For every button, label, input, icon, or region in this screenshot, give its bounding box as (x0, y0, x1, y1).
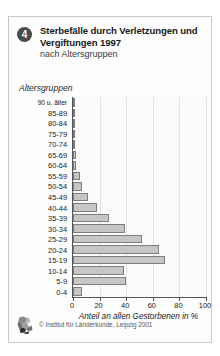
chart-subtitle: nach Altersgruppen (40, 49, 207, 60)
y-tick-label: 65-69 (48, 150, 67, 159)
x-tick-label: 100 (199, 301, 211, 310)
x-tick-label: 0 (70, 301, 74, 310)
bar (73, 203, 97, 212)
y-axis-title: Altersgruppen (19, 83, 73, 93)
y-tick-label: 0-4 (56, 287, 67, 296)
y-tick-label: 5-9 (56, 277, 67, 286)
bar (73, 256, 165, 265)
bar (73, 193, 88, 202)
bar (73, 287, 82, 296)
bar (73, 224, 125, 233)
bar (73, 214, 109, 223)
y-tick-label: 80-84 (48, 119, 67, 128)
y-tick-label: 50-54 (48, 182, 67, 191)
y-tick-label: 30-34 (48, 224, 67, 233)
gridline (206, 97, 207, 297)
plot-area (72, 97, 206, 298)
bar (73, 119, 75, 128)
gridline (126, 97, 127, 297)
title-block: Sterbefälle durch Verletzungen und Vergi… (40, 25, 207, 60)
y-tick-label: 70-74 (48, 140, 67, 149)
plot-area-wrapper: 90 u. älter85-8980-8475-7970-7465-6960-6… (19, 97, 207, 310)
y-tick-label: 15-19 (48, 256, 67, 265)
x-tick-label: 40 (121, 301, 129, 310)
y-tick-label: 55-59 (48, 171, 67, 180)
bar (73, 98, 75, 107)
y-tick-label: 75-79 (48, 129, 67, 138)
bar (73, 266, 124, 275)
bar (73, 245, 159, 254)
y-tick-label: 35-39 (48, 214, 67, 223)
y-tick-label: 25-29 (48, 235, 67, 244)
y-axis-tick-labels: 90 u. älter85-8980-8475-7970-7465-6960-6… (19, 97, 70, 297)
x-tick-label: 80 (174, 301, 182, 310)
bar (73, 109, 75, 118)
x-tick-label: 20 (94, 301, 102, 310)
bar (73, 140, 75, 149)
chart-card: 4 Sterbefälle durch Verletzungen und Ver… (8, 16, 212, 343)
y-tick-label: 20-24 (48, 245, 67, 254)
bar (73, 130, 75, 139)
bar (73, 235, 142, 244)
bar (73, 182, 82, 191)
y-tick-label: 60-64 (48, 161, 67, 170)
bar (73, 172, 80, 181)
bar (73, 277, 126, 286)
figure-root: 4 Sterbefälle durch Verletzungen und Ver… (0, 0, 220, 356)
chart-header: 4 Sterbefälle durch Verletzungen und Ver… (9, 25, 213, 60)
y-tick-label: 10-14 (48, 266, 67, 275)
chart-footer: © Institut für Länderkunde, Leipzig 2001 (17, 316, 207, 336)
ifl-logo-icon (17, 316, 34, 334)
figure-number-badge: 4 (17, 27, 32, 42)
y-tick-label: 90 u. älter (38, 99, 67, 106)
bar (73, 161, 76, 170)
y-tick-label: 45-49 (48, 193, 67, 202)
y-tick-label: 40-44 (48, 203, 67, 212)
gridline (153, 97, 154, 297)
bar (73, 151, 76, 160)
gridline (179, 97, 180, 297)
x-tick-label: 60 (148, 301, 156, 310)
y-tick-label: 85-89 (48, 108, 67, 117)
chart-title: Sterbefälle durch Verletzungen und Vergi… (40, 25, 207, 48)
credit-text: © Institut für Länderkunde, Leipzig 2001 (39, 321, 152, 328)
